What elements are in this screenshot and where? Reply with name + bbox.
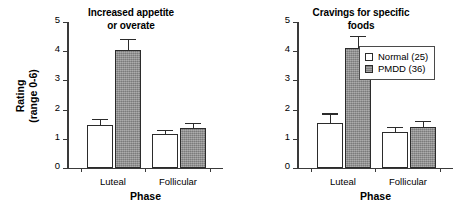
y-tick-3-right: 3	[293, 80, 298, 81]
y-tick-2-right: 2	[293, 110, 298, 111]
errorbar-right-follicular-pmdd	[423, 122, 424, 126]
y-tick-3-left: 3	[63, 80, 68, 81]
y-tick-0-left: 0	[63, 168, 68, 169]
bar-left-luteal-pmdd	[115, 50, 141, 168]
errorcap-right-luteal-pmdd	[350, 36, 366, 37]
errorbar-left-follicular-normal	[165, 131, 166, 134]
chart-panel-left: Increased appetite or overate Rating (ra…	[0, 0, 230, 212]
x-tick-left-3	[210, 168, 211, 172]
y-tick-2-left: 2	[63, 110, 68, 111]
errorcap-left-follicular-pmdd	[185, 123, 201, 124]
bar-left-follicular-pmdd	[180, 128, 206, 168]
panel-title-right-line1: Cravings for specific	[266, 6, 456, 19]
x-tick-right-2	[375, 168, 376, 172]
bar-right-follicular-pmdd	[410, 127, 436, 169]
errorcap-right-follicular-pmdd	[415, 121, 431, 122]
x-axis-title-right: Phase	[298, 190, 453, 202]
x-label-left-follicular: Follicular	[159, 177, 197, 187]
y-axis-line-right	[297, 22, 299, 168]
errorcap-left-follicular-normal	[157, 130, 173, 131]
plot-area-right: 5 4 3 2 1 0 Luteal Follicular	[298, 22, 453, 168]
errorcap-left-luteal-pmdd	[120, 39, 136, 40]
figure: Increased appetite or overate Rating (ra…	[0, 0, 460, 212]
panel-title-left-line1: Increased appetite	[36, 6, 226, 19]
errorbar-right-luteal-normal	[330, 115, 331, 123]
errorcap-left-luteal-normal	[92, 119, 108, 120]
legend-label-normal: Normal (25)	[378, 52, 428, 62]
errorbar-left-follicular-pmdd	[193, 124, 194, 128]
errorbar-left-luteal-normal	[100, 120, 101, 125]
y-tick-4-left: 4	[63, 51, 68, 52]
y-axis-title-left-line1: Rating	[14, 56, 27, 136]
bar-left-luteal-normal	[87, 125, 113, 168]
y-tick-5-right: 5	[293, 22, 298, 23]
y-axis-line-left	[67, 22, 69, 168]
y-tick-1-right: 1	[293, 139, 298, 140]
y-axis-title-left: Rating (range 0-6)	[14, 56, 40, 136]
errorbar-right-follicular-normal	[395, 128, 396, 132]
bar-left-follicular-normal	[152, 134, 178, 168]
legend-item-normal: Normal (25)	[365, 51, 428, 63]
chart-panel-right: Cravings for specific foods 5 4 3 2 1 0	[230, 0, 460, 212]
legend-swatch-pmdd-icon	[365, 65, 373, 73]
y-tick-0-right: 0	[293, 168, 298, 169]
errorbar-left-luteal-pmdd	[128, 40, 129, 50]
plot-area-left: 5 4 3 2 1 0 Luteal	[68, 22, 223, 168]
legend-item-pmdd: PMDD (36)	[365, 63, 428, 75]
errorcap-right-luteal-normal	[322, 113, 338, 114]
bar-right-luteal-normal	[317, 123, 343, 168]
x-tick-right-3	[440, 168, 441, 172]
x-label-right-follicular: Follicular	[389, 177, 427, 187]
chart-legend: Normal (25) PMDD (36)	[359, 46, 435, 80]
x-axis-title-left: Phase	[68, 190, 223, 202]
errorcap-right-follicular-normal	[387, 127, 403, 128]
x-label-left-luteal: Luteal	[100, 177, 126, 187]
y-tick-5-left: 5	[63, 22, 68, 23]
y-tick-4-right: 4	[293, 51, 298, 52]
x-label-right-luteal: Luteal	[330, 177, 356, 187]
bar-right-follicular-normal	[382, 132, 408, 168]
y-axis-title-left-line2: (range 0-6)	[27, 56, 40, 136]
legend-label-pmdd: PMDD (36)	[378, 64, 426, 74]
y-tick-1-left: 1	[63, 139, 68, 140]
legend-swatch-normal-icon	[365, 53, 373, 61]
x-tick-right-1	[311, 168, 312, 172]
x-tick-left-1	[81, 168, 82, 172]
x-tick-left-2	[145, 168, 146, 172]
